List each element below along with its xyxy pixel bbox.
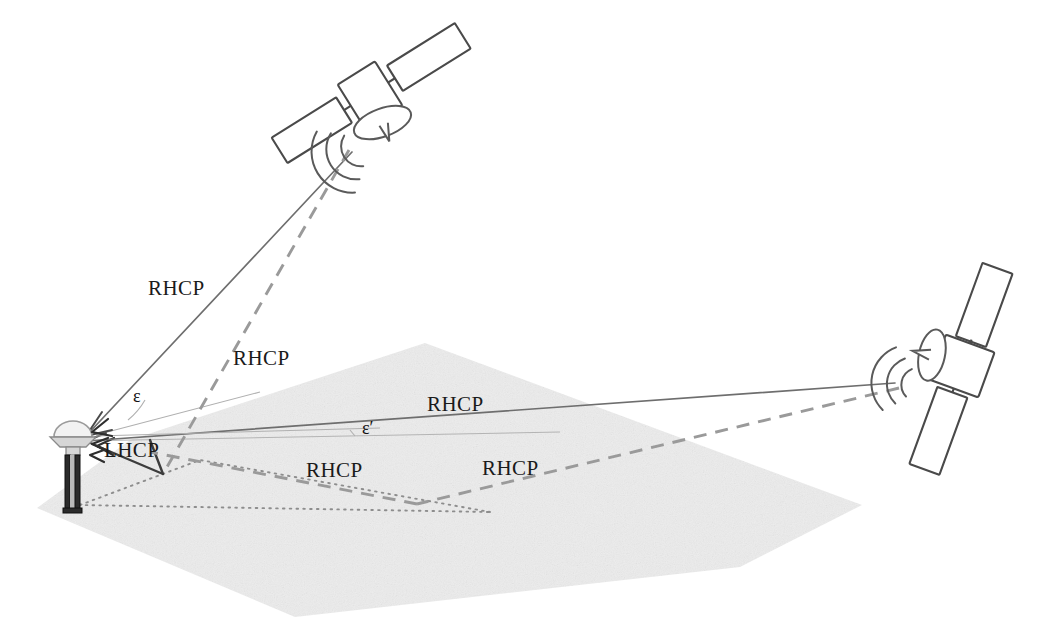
label-rhcp-direct-left: RHCP bbox=[148, 276, 204, 300]
label-elevation-angle-left: ε bbox=[133, 386, 141, 406]
label-elevation-angle-right: ε′ bbox=[362, 418, 374, 438]
label-rhcp-reflected-far: RHCP bbox=[482, 456, 538, 480]
antenna-mast-foot bbox=[63, 508, 82, 513]
label-rhcp-incident-left: RHCP bbox=[233, 346, 289, 370]
ground-plane bbox=[37, 343, 862, 617]
satellite-icon-upper-left bbox=[266, 15, 493, 199]
antenna-connector bbox=[66, 447, 80, 455]
label-lhcp-reflected: LHCP bbox=[104, 438, 159, 462]
diagram-canvas: RHCP RHCP RHCP RHCP RHCP LHCP ε ε′ bbox=[0, 0, 1042, 633]
signal-reflection-scene: RHCP RHCP RHCP RHCP RHCP LHCP ε ε′ bbox=[0, 0, 1042, 633]
label-rhcp-reflected-near: RHCP bbox=[306, 458, 362, 482]
antenna-radome bbox=[54, 421, 92, 437]
solar-panel-right bbox=[387, 23, 471, 91]
antenna-mast-middle bbox=[70, 455, 75, 510]
solar-panel-bottom bbox=[909, 387, 967, 475]
incoming-arrowhead-3 bbox=[90, 450, 104, 462]
wave-arc-inner bbox=[899, 368, 912, 397]
antenna-mast-left bbox=[65, 455, 70, 510]
satellite-right-waves bbox=[866, 344, 916, 414]
terrain-polygon bbox=[37, 343, 862, 617]
label-rhcp-direct-right: RHCP bbox=[427, 392, 483, 416]
solar-panel-top bbox=[956, 263, 1013, 347]
antenna-ground-plane bbox=[50, 437, 96, 447]
antenna-mast-right bbox=[75, 455, 80, 510]
